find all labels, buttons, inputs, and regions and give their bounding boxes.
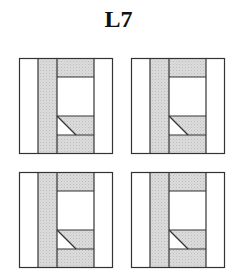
panel-top-right <box>131 58 225 154</box>
panel-grid <box>0 0 237 274</box>
panel-top-left <box>19 58 113 154</box>
panel-bottom-right <box>131 172 225 268</box>
panel-bottom-left <box>19 172 113 268</box>
